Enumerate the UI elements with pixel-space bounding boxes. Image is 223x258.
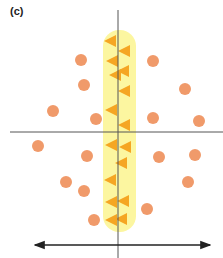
circle-marker-icon [78,185,90,197]
circle-marker-icon [141,203,153,215]
circle-marker-icon [32,140,44,152]
circle-marker-icon [47,105,59,117]
circle-marker-icon [153,151,165,163]
circle-marker-icon [182,176,194,188]
circle-marker-icon [193,115,205,127]
circle-marker-icon [75,54,87,66]
circle-marker-icon [90,113,102,125]
scatter-diagram [0,0,223,258]
circle-marker-icon [78,79,90,91]
circle-marker-icon [147,112,159,124]
circle-marker-icon [60,176,72,188]
circle-marker-icon [81,150,93,162]
circle-marker-icon [147,55,159,67]
circle-marker-icon [88,214,100,226]
circle-marker-icon [179,83,191,95]
circle-marker-icon [189,149,201,161]
